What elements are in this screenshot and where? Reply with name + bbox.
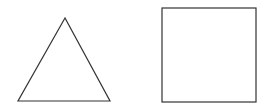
shapes-canvas xyxy=(0,0,271,108)
triangle-shape xyxy=(18,18,110,101)
square-shape xyxy=(162,8,256,102)
